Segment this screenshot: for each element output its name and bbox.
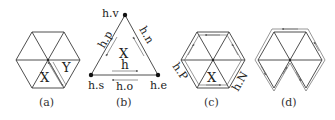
edge-label-h: h: [121, 58, 129, 72]
vertex-label-e: h.e: [150, 79, 167, 92]
center-vertex: [212, 59, 214, 61]
edge-label-next-boundary: h.N: [229, 69, 251, 93]
edge-label-n: h.n: [136, 24, 156, 46]
center-vertex: [47, 59, 49, 61]
caption-b: (b): [116, 96, 132, 109]
vertex-label-v: h.v: [102, 7, 120, 20]
face-label-x: X: [40, 70, 50, 85]
edge-label-p: h.p: [95, 29, 115, 51]
vertex-right: [156, 73, 160, 77]
face-label-x: X: [207, 70, 217, 85]
face-label-y: Y: [61, 60, 71, 75]
figure-canvas: X Y (a) h.v h.s h.e h.p h.n X h h.o (b): [0, 0, 335, 120]
vertex-top: [123, 13, 127, 17]
panel-a: X Y (a): [16, 32, 80, 109]
edge-label-o: h.o: [116, 80, 134, 93]
caption-a: (a): [39, 96, 54, 109]
panel-d: (d): [255, 29, 325, 109]
vertex-label-s: h.s: [88, 79, 105, 92]
panel-b: h.v h.s h.e h.p h.n X h h.o (b): [88, 7, 167, 109]
edge-label-prev-boundary: h.P: [170, 60, 191, 83]
caption-d: (d): [281, 96, 297, 109]
vertex-left: [89, 73, 93, 77]
caption-c: (c): [204, 96, 219, 109]
panel-c: X h.P h.N (c): [170, 32, 251, 109]
center-vertex: [289, 59, 291, 61]
